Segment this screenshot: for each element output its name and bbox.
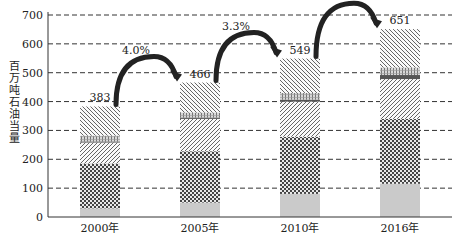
bar-segment bbox=[280, 137, 320, 194]
bar-segment bbox=[180, 203, 220, 217]
bar-2000年: 383 bbox=[80, 91, 120, 217]
bar-segment bbox=[380, 68, 420, 76]
arrow-curve bbox=[116, 57, 176, 105]
total-label: 466 bbox=[190, 68, 211, 81]
x-tick-label: 2016年 bbox=[381, 221, 420, 235]
growth-arrow: 3.5% bbox=[316, 0, 382, 57]
bar-segment bbox=[380, 119, 420, 184]
bar-segment bbox=[180, 83, 220, 113]
y-tick-label: 200 bbox=[22, 153, 43, 166]
y-tick-label: 100 bbox=[22, 182, 43, 195]
chart-canvas: 0100200300400500600700 383466549651 4.0%… bbox=[0, 0, 460, 244]
arrow-curve bbox=[316, 3, 376, 56]
y-tick-label: 700 bbox=[22, 9, 43, 22]
bar-segment bbox=[180, 151, 220, 202]
x-tick-label: 2005年 bbox=[181, 221, 220, 235]
bar-2016年: 651 bbox=[380, 14, 420, 217]
y-tick-label: 300 bbox=[22, 124, 43, 137]
bar-segment bbox=[80, 136, 120, 142]
bar-segment bbox=[80, 143, 120, 164]
growth-rate-label: 4.0% bbox=[122, 44, 150, 57]
bar-segment bbox=[380, 184, 420, 217]
bar-segment bbox=[280, 59, 320, 93]
y-tick-label: 400 bbox=[22, 96, 43, 109]
total-label: 651 bbox=[390, 14, 411, 27]
y-tick-label: 500 bbox=[22, 67, 43, 80]
bar-segment bbox=[280, 102, 320, 137]
y-axis-label: 百万吨石油当量 bbox=[7, 60, 21, 144]
bar-2010年: 549 bbox=[280, 44, 320, 217]
arrow-curve bbox=[216, 33, 276, 81]
bar-segment bbox=[180, 117, 220, 118]
total-label: 383 bbox=[90, 91, 111, 104]
total-label: 549 bbox=[290, 44, 311, 57]
growth-arrow: 4.0% bbox=[116, 44, 182, 105]
x-axis: 2000年2005年2010年2016年 bbox=[48, 217, 452, 235]
bar-2005年: 466 bbox=[180, 68, 220, 217]
y-tick-label: 0 bbox=[36, 211, 43, 224]
bar-segment bbox=[380, 75, 420, 79]
bar-segment bbox=[380, 29, 420, 67]
y-tick-label: 600 bbox=[22, 38, 43, 51]
bar-segment bbox=[80, 208, 120, 217]
bar-segment bbox=[180, 119, 220, 151]
bar-segment bbox=[80, 164, 120, 209]
bar-segment bbox=[280, 93, 320, 100]
growth-arrows: 4.0%3.3%3.5% bbox=[116, 0, 382, 104]
bar-segment bbox=[80, 141, 120, 142]
bar-segment bbox=[280, 194, 320, 217]
growth-rate-label: 3.3% bbox=[222, 20, 250, 33]
bar-segment bbox=[80, 106, 120, 135]
y-axis: 0100200300400500600700 bbox=[22, 9, 48, 224]
bar-segment bbox=[180, 113, 220, 118]
growth-rate-label: 3.5% bbox=[322, 0, 350, 3]
growth-arrow: 3.3% bbox=[216, 20, 282, 81]
bar-segment bbox=[280, 100, 320, 102]
x-tick-label: 2010年 bbox=[281, 221, 320, 235]
x-tick-label: 2000年 bbox=[81, 221, 120, 235]
bar-segment bbox=[380, 79, 420, 119]
stacked-bar-chart: 0100200300400500600700 383466549651 4.0%… bbox=[0, 0, 460, 244]
